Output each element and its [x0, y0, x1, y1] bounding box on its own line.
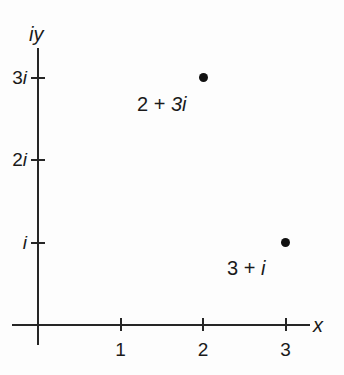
- y-axis-label: iy: [29, 24, 43, 44]
- x-tick-label: 1: [101, 340, 141, 359]
- x-tick-mark: [285, 318, 287, 331]
- y-tick-label: 3i: [0, 68, 27, 87]
- x-axis-label: x: [313, 315, 323, 335]
- x-axis-line: [12, 324, 310, 326]
- point-label-imaginary-part: i: [261, 257, 265, 279]
- point-label-real-part: 2: [137, 93, 148, 115]
- y-tick-label: i: [0, 233, 27, 252]
- data-point: [281, 238, 290, 247]
- x-tick-mark: [202, 318, 204, 331]
- x-tick-label: 2: [183, 340, 223, 359]
- y-tick-label: 2i: [0, 150, 27, 169]
- y-tick-mark: [31, 159, 45, 161]
- point-label-real-part: 3: [227, 257, 238, 279]
- point-label-3-plus-i: 3 + i: [227, 258, 265, 278]
- data-point: [199, 73, 208, 82]
- x-tick-mark: [120, 318, 122, 331]
- complex-plane-figure: x iy 123 i2i3i 2 + 3i 3 + i: [0, 0, 344, 375]
- point-label-imaginary-part: 3i: [171, 93, 187, 115]
- y-tick-mark: [31, 242, 45, 244]
- y-tick-mark: [31, 77, 45, 79]
- point-label-operator: +: [244, 257, 256, 279]
- point-label-2-plus-3i: 2 + 3i: [137, 94, 187, 114]
- point-label-operator: +: [154, 93, 166, 115]
- x-tick-label: 3: [266, 340, 306, 359]
- y-axis-line: [37, 48, 39, 345]
